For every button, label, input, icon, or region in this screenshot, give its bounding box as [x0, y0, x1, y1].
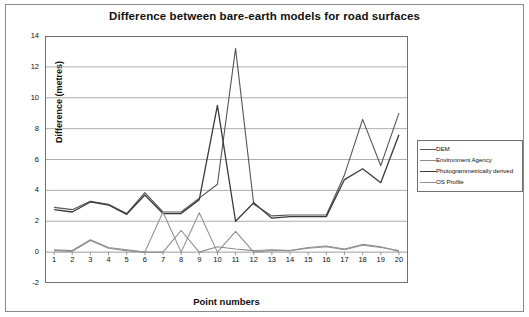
- legend-label: Environment Agency: [436, 156, 492, 164]
- legend-label: DEM: [436, 145, 450, 153]
- legend-line-swatch-icon: [420, 156, 436, 165]
- legend-item: DEM: [420, 144, 520, 154]
- chart-title: Difference between bare-earth models for…: [0, 10, 529, 22]
- y-tick-label: 8: [13, 125, 39, 133]
- legend-line-swatch-icon: [420, 145, 436, 154]
- legend-label: Photogrammetrically derived: [436, 167, 513, 175]
- legend-line-swatch-icon: [420, 178, 436, 187]
- y-tick-label: 14: [13, 32, 39, 40]
- plot-svg: [45, 36, 408, 283]
- y-tick-label: 2: [13, 217, 39, 225]
- y-tick-label: 10: [13, 94, 39, 102]
- legend-item: Photogrammetrically derived: [420, 166, 520, 176]
- y-tick-label: 12: [13, 63, 39, 71]
- chart-figure: Difference between bare-earth models for…: [0, 0, 529, 317]
- legend-line-swatch-icon: [420, 167, 436, 176]
- legend-item: Environment Agency: [420, 155, 520, 165]
- y-tick-label: 6: [13, 156, 39, 164]
- series-line-3: [54, 212, 399, 252]
- chart-legend: DEMEnvironment AgencyPhotogrammetrically…: [417, 140, 523, 192]
- y-tick-label: 4: [13, 186, 39, 194]
- legend-item: OS Profile: [420, 177, 520, 187]
- x-axis-label: Point numbers: [45, 296, 408, 307]
- legend-label: OS Profile: [436, 178, 464, 186]
- plot-area: [45, 36, 408, 283]
- y-tick-label: 0: [13, 248, 39, 256]
- y-tick-label: -2: [13, 279, 39, 287]
